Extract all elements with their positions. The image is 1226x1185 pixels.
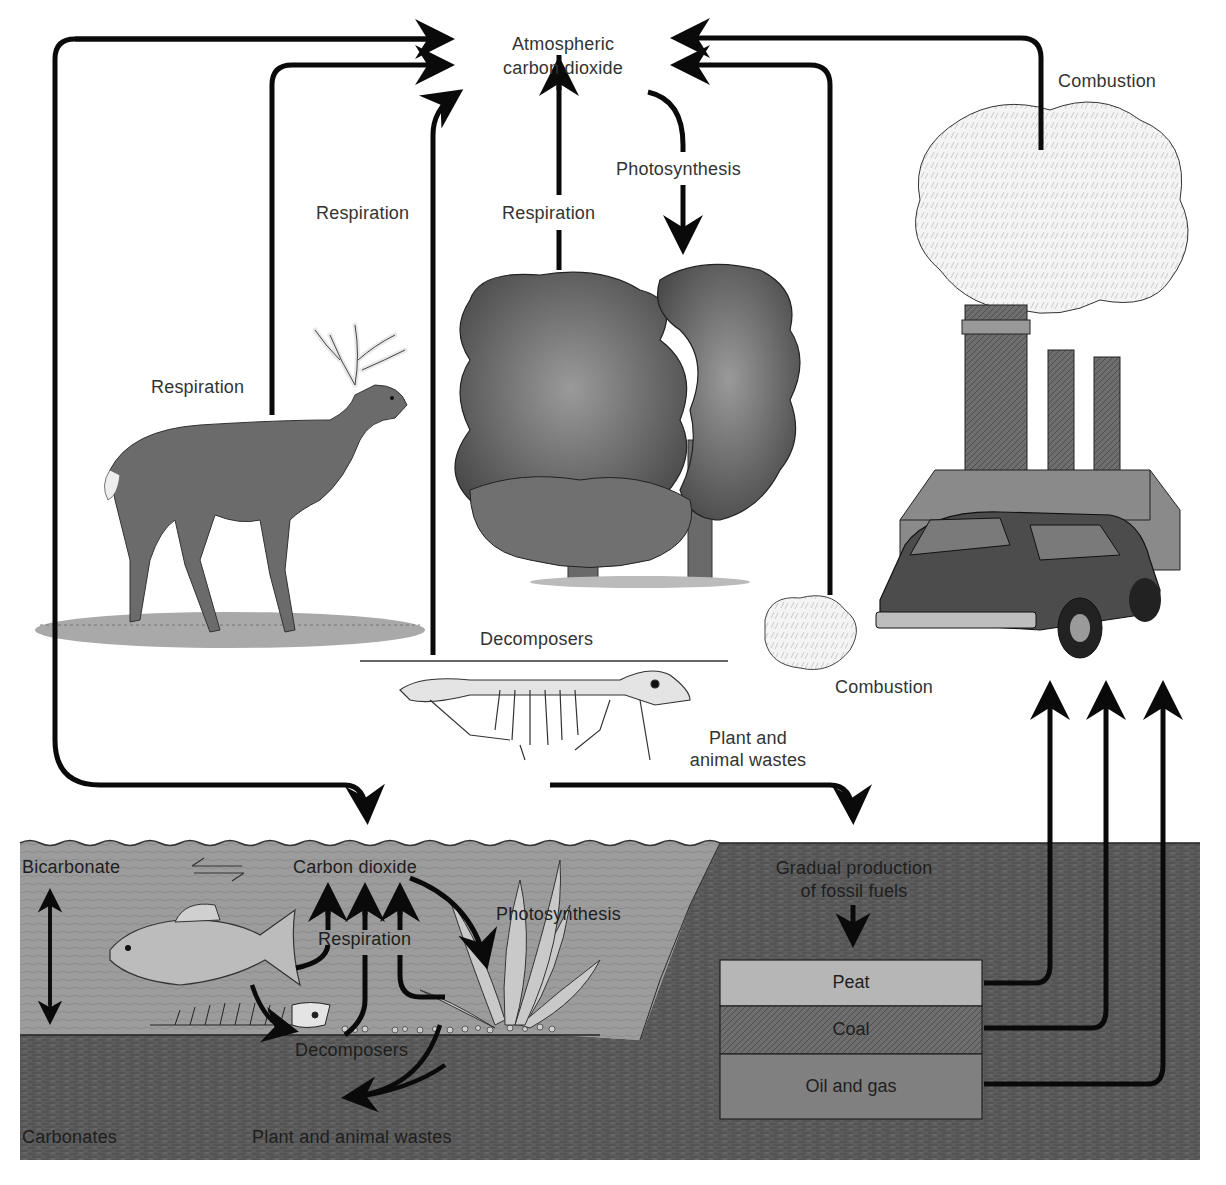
car-combustion-label: Combustion: [835, 677, 933, 698]
aquatic-decomposers-label: Decomposers: [295, 1040, 408, 1061]
wastes-label-line1: Plant and: [709, 728, 787, 749]
oil-gas-layer-label: Oil and gas: [720, 1076, 982, 1097]
station-wagon-illustration: [876, 512, 1161, 658]
exhaust-cloud-illustration: [765, 596, 856, 670]
decomposers-label: Decomposers: [480, 629, 593, 650]
wastes-label-line2: animal wastes: [690, 750, 807, 771]
tree-photosynthesis-label: Photosynthesis: [616, 159, 741, 180]
animal-skeleton-illustration: [400, 671, 690, 760]
decomposer-respiration-label: Respiration: [316, 203, 409, 224]
aquatic-respiration-label: Respiration: [318, 929, 411, 950]
aquatic-wastes-label: Plant and animal wastes: [252, 1127, 452, 1148]
fossil-production-label-line2: of fossil fuels: [800, 881, 907, 902]
atmosphere-label-line2: carbon dioxide: [503, 58, 623, 79]
factory-combustion-label: Combustion: [1058, 71, 1156, 92]
tree-respiration-label: Respiration: [502, 203, 595, 224]
decomposer-respiration-arrow: [433, 95, 455, 655]
deer-respiration-label: Respiration: [151, 377, 244, 398]
fossil-production-label-line1: Gradual production: [776, 858, 933, 879]
wastes-to-fossil-arrow: [550, 785, 853, 815]
aquatic-photosynthesis-label: Photosynthesis: [496, 904, 621, 925]
trees-illustration: [455, 264, 800, 588]
factory-illustration: [900, 102, 1188, 570]
deer-illustration: [35, 325, 425, 648]
coal-layer-label: Coal: [720, 1019, 982, 1040]
carbonates-label: Carbonates: [22, 1127, 117, 1148]
peat-layer-label: Peat: [720, 972, 982, 993]
atmosphere-label-line1: Atmospheric: [512, 34, 614, 55]
carbon-cycle-diagram: Atmospheric carbon dioxide Combustion Ph…: [0, 0, 1226, 1185]
carbon-dioxide-water-label: Carbon dioxide: [293, 857, 417, 878]
bicarbonate-label: Bicarbonate: [22, 857, 120, 878]
